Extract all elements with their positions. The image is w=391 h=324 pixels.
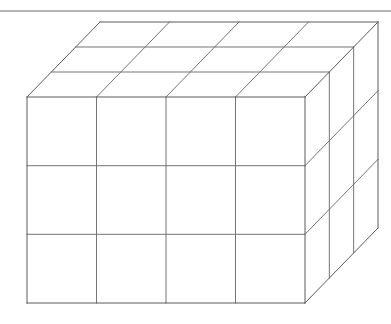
cuboid-figure: [0, 0, 391, 324]
figure-page: [0, 0, 391, 324]
faces-fill-group: [27, 22, 378, 303]
